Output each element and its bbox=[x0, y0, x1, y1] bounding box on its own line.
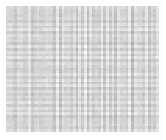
heatmap-grid bbox=[6, 6, 159, 132]
heatmap-cell bbox=[156, 129, 159, 132]
figure-canvas bbox=[0, 0, 166, 140]
